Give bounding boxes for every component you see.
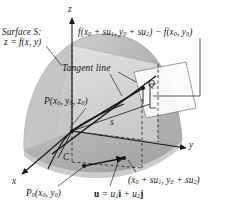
label-difference-formula: f(x0 + su1, y0 + su2) − f(x0, y0) [78,27,192,38]
point-Q [141,86,145,90]
label-distance-s: s [110,117,114,127]
label-point-q: Q [148,79,155,89]
point-x0su1 [122,156,126,160]
label-vector-u: u = u1i + u2j [94,189,143,200]
label-surface-s: Surface S: z = f(x, y) [2,27,41,48]
label-curve-c: C [63,152,69,162]
point-P0 [82,164,86,168]
label-axis-x: x [12,176,16,186]
label-point-x0su1: (x0 + su1, y0 + su2) [128,175,200,186]
point-P [70,129,74,133]
label-point-p: P(x0, y0, z0) [44,96,88,107]
label-point-p0: P0(x0, y0) [26,188,61,199]
label-tangent-line: Tangent line [62,63,111,74]
label-axis-z: z [68,4,72,14]
label-axis-y: y [189,140,193,150]
figure-canvas: Surface S: z = f(x, y) f(x0 + su1, y0 + … [0,0,228,215]
